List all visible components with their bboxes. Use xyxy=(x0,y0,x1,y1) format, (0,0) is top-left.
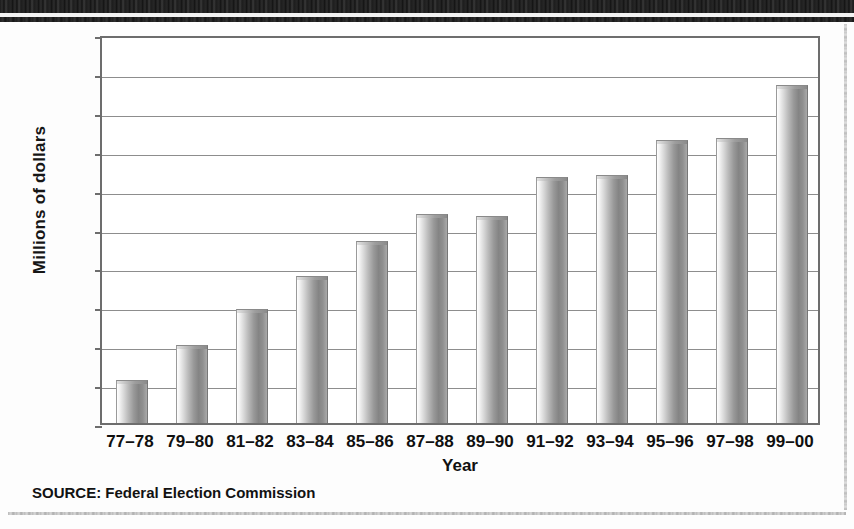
right-divider xyxy=(844,24,847,510)
bar-top-cap xyxy=(717,139,747,142)
bar-top-cap xyxy=(477,217,507,220)
chart-figure: Millions of dollars Year SOURCE: Federal… xyxy=(0,0,854,529)
bar xyxy=(356,241,388,423)
header-band-icon xyxy=(0,0,854,13)
bar-top-cap xyxy=(177,346,207,349)
bar-top-cap xyxy=(117,381,147,384)
x-axis-title: Year xyxy=(100,456,820,476)
bar xyxy=(776,85,808,423)
bar xyxy=(716,138,748,423)
gridline xyxy=(102,388,818,389)
gridline xyxy=(102,310,818,311)
y-tick-mark xyxy=(95,270,102,272)
bar xyxy=(296,276,328,423)
bar xyxy=(656,140,688,423)
bar xyxy=(176,345,208,423)
header-band-rule xyxy=(0,17,854,22)
y-tick-mark xyxy=(95,348,102,350)
bar-top-cap xyxy=(297,277,327,280)
y-tick-mark xyxy=(95,76,102,78)
y-axis-title: Millions of dollars xyxy=(30,80,50,320)
bar-top-cap xyxy=(777,86,807,89)
y-tick-mark xyxy=(95,193,102,195)
y-tick-mark xyxy=(95,232,102,234)
y-tick-mark xyxy=(95,154,102,156)
bar-top-cap xyxy=(357,242,387,245)
plot-area xyxy=(100,36,820,425)
bar-top-cap xyxy=(237,310,267,313)
bar xyxy=(236,309,268,423)
y-tick-mark xyxy=(95,426,102,428)
bottom-divider xyxy=(8,512,846,515)
gridline xyxy=(102,77,818,78)
gridline xyxy=(102,233,818,234)
gridline xyxy=(102,349,818,350)
x-tick-label: 99–00 xyxy=(750,432,830,452)
y-tick-mark xyxy=(95,387,102,389)
bar xyxy=(476,216,508,423)
gridline xyxy=(102,271,818,272)
y-tick-mark xyxy=(95,37,102,39)
bar xyxy=(536,177,568,423)
bar-top-cap xyxy=(537,178,567,181)
gridline xyxy=(102,116,818,117)
bar xyxy=(596,175,628,423)
bar xyxy=(416,214,448,423)
y-tick-mark xyxy=(95,115,102,117)
bar-top-cap xyxy=(417,215,447,218)
bar-top-cap xyxy=(597,176,627,179)
y-tick-mark xyxy=(95,309,102,311)
gridline xyxy=(102,155,818,156)
source-note: SOURCE: Federal Election Commission xyxy=(32,484,315,501)
bar xyxy=(116,380,148,423)
gridline xyxy=(102,194,818,195)
bar-top-cap xyxy=(657,141,687,144)
